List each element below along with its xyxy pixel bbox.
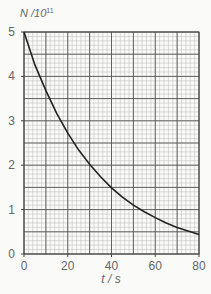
y-tick-label: 3	[8, 114, 15, 128]
x-tick-label: 60	[149, 259, 163, 273]
decay-chart: 020406080012345 N /1011 t / s	[0, 0, 211, 294]
y-tick-label: 4	[8, 69, 15, 83]
y-tick-label: 5	[8, 25, 15, 39]
y-tick-label: 1	[8, 203, 15, 217]
y-tick-label: 2	[8, 158, 15, 172]
x-tick-label: 40	[105, 259, 119, 273]
y-tick-label: 0	[8, 247, 15, 261]
x-tick-label: 20	[61, 259, 75, 273]
x-tick-label: 0	[21, 259, 28, 273]
x-axis-label: t / s	[101, 272, 120, 286]
y-axis-label: N /1011	[20, 7, 54, 19]
x-tick-label: 80	[192, 259, 206, 273]
